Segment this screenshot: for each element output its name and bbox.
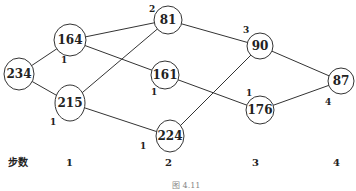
node-label: 215 [57, 96, 82, 110]
steps-row: 步数 1234 [8, 156, 340, 168]
edge-215-224 [70, 103, 170, 136]
figure-caption: 图 4.11 [172, 181, 200, 190]
step-number-1: 1 [66, 157, 73, 168]
weight-label: 1 [140, 141, 146, 151]
node-161: 161 [151, 61, 179, 89]
step-number-2: 2 [165, 157, 172, 168]
node-164: 164 [54, 24, 86, 56]
weight-label: 1 [61, 55, 67, 65]
weight-label: 3 [243, 25, 249, 35]
node-87: 87 [328, 68, 354, 94]
node-176: 176 [246, 96, 274, 124]
node-label: 161 [152, 68, 177, 82]
nodes-group: 234164215811612249017687 [4, 6, 354, 152]
step-number-3: 3 [252, 157, 259, 168]
node-215: 215 [55, 85, 85, 121]
node-90: 90 [247, 33, 273, 59]
steps-title: 步数 [8, 156, 29, 168]
weight-label: 2 [149, 4, 155, 14]
graph-diagram: 234164215811612249017687 11211314 步数 123… [0, 0, 356, 191]
node-label: 224 [157, 129, 182, 143]
node-label: 81 [160, 13, 177, 27]
weight-label: 4 [325, 97, 331, 107]
node-label: 234 [6, 67, 31, 81]
node-label: 164 [57, 33, 82, 47]
node-label: 87 [333, 74, 350, 88]
weight-label: 1 [246, 88, 252, 98]
diagram-stage: 234164215811612249017687 11211314 步数 123… [0, 0, 356, 191]
weight-label: 1 [50, 117, 56, 127]
node-81: 81 [154, 6, 182, 34]
node-224: 224 [156, 120, 184, 152]
node-234: 234 [4, 58, 34, 90]
node-label: 90 [252, 39, 269, 53]
node-label: 176 [247, 103, 272, 117]
step-number-4: 4 [333, 157, 340, 168]
weight-label: 1 [151, 87, 157, 97]
